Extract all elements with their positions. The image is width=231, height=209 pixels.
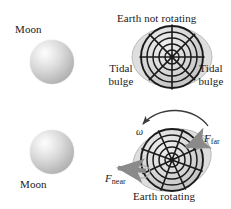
tidal-bulge-left-line2: bulge bbox=[109, 75, 134, 87]
earth-outline-bottom bbox=[141, 129, 203, 191]
earth-not-rotating-label: Earth not rotating bbox=[117, 12, 196, 24]
earth-diagram-bottom bbox=[118, 111, 219, 202]
earth-rings-top bbox=[147, 32, 197, 82]
tidal-bulge-right-line1: Tidal bbox=[199, 62, 222, 74]
force-far-label: Ffar bbox=[204, 132, 220, 148]
force-far-symbol: F bbox=[204, 132, 211, 144]
moon-label-bottom: Moon bbox=[20, 178, 47, 190]
earth-rotating-label: Earth rotating bbox=[133, 190, 195, 202]
force-near-bulge-hint bbox=[134, 164, 151, 180]
tidal-bulge-left-line1: Tidal bbox=[109, 62, 132, 74]
force-near-symbol: F bbox=[105, 172, 112, 184]
rotation-arrow bbox=[143, 111, 208, 126]
force-near-subscript: near bbox=[112, 177, 126, 186]
force-near-label: Fnear bbox=[105, 172, 126, 188]
tidal-bulge-label-left: Tidal bulge bbox=[103, 62, 139, 87]
earth-rings-bottom bbox=[147, 135, 197, 185]
moon-sphere-bottom bbox=[30, 130, 74, 174]
tidal-bulge-right-line2: bulge bbox=[199, 75, 224, 87]
force-far-subscript: far bbox=[211, 137, 220, 146]
moon-sphere-top bbox=[30, 40, 74, 84]
angular-velocity-label: ω bbox=[136, 126, 143, 138]
tidal-bulge-figure: Moon Moon Earth not rotating Tidal bulge… bbox=[0, 0, 231, 209]
earth-radial-lines-bottom bbox=[131, 119, 213, 201]
tidal-bulge-label-right: Tidal bulge bbox=[193, 62, 229, 87]
moon-label-top: Moon bbox=[15, 23, 42, 35]
